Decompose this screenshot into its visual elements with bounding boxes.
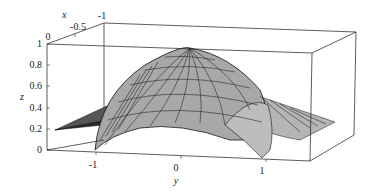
z-axis-labels: 1 0.8 0.6 0.4 0.2 0 z <box>19 38 42 155</box>
z-tick: 0 <box>37 144 42 155</box>
y-tick: 1 <box>260 165 265 176</box>
y-axis-labels: -1 0 1 y <box>89 159 265 186</box>
y-tick: -1 <box>89 159 97 170</box>
x-axis-title: x <box>61 9 67 20</box>
surface-plot: 1 0.8 0.6 0.4 0.2 0 z -1 0 1 y 0 -0.5 -1… <box>0 0 374 195</box>
z-tick: 0.2 <box>30 123 43 134</box>
z-tick: 0.6 <box>30 80 43 91</box>
x-tick: 0 <box>46 31 51 42</box>
x-tick: -0.5 <box>70 21 86 32</box>
y-axis-title: y <box>173 175 179 186</box>
x-tick: -1 <box>98 10 106 21</box>
z-axis-title: z <box>19 91 24 102</box>
z-tick: 1 <box>37 38 42 49</box>
z-tick: 0.4 <box>30 102 43 113</box>
y-tick: 0 <box>174 162 179 173</box>
z-tick: 0.8 <box>30 59 43 70</box>
